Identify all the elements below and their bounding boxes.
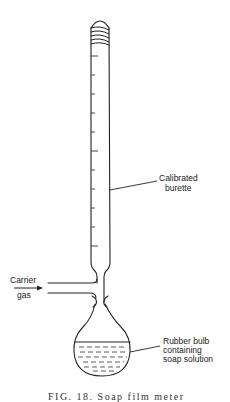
side-arm-top [48, 279, 97, 283]
carrier-gas-label-line2: gas [17, 291, 31, 300]
figure-caption: FIG. 18. Soap film meter [48, 391, 185, 402]
burette-graduations [91, 56, 98, 246]
soap-solution [78, 347, 127, 371]
side-arm-bottom [48, 293, 96, 298]
burette-left-wall [91, 28, 97, 283]
burette-label-line2: burette [165, 184, 191, 193]
burette-coils [91, 27, 109, 45]
bulb-label-line3: soap solution [163, 355, 213, 364]
carrier-gas-label-line1: Carrier [10, 276, 36, 285]
burette-label-line1: Calibrated [159, 174, 198, 183]
rubber-bulb [74, 304, 130, 376]
burette-right-wall [104, 28, 110, 302]
burette-leader-line [110, 181, 157, 190]
bulb-leader-line [130, 346, 160, 352]
